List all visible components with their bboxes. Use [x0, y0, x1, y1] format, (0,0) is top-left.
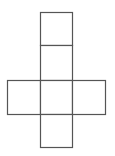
- net-square-top: [41, 13, 73, 46]
- net-square-center: [41, 81, 73, 115]
- net-square-bottom: [41, 115, 73, 148]
- net-square-left: [8, 81, 41, 115]
- net-square-right: [73, 81, 106, 115]
- net-square-upper-middle: [41, 46, 73, 81]
- cube-net-diagram: [0, 0, 115, 156]
